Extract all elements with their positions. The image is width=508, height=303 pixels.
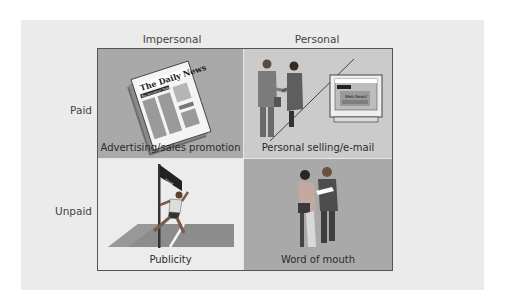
cell-publicity: TAPE Publicity	[98, 159, 244, 270]
cell-advertising: The Daily News Big Sensation Today Adver…	[98, 49, 244, 159]
cell-personal-selling: Web News! Personal selling/e-mail	[244, 49, 392, 159]
promotion-matrix: The Daily News Big Sensation Today Adver…	[97, 48, 393, 271]
cell-caption-personal-selling: Personal selling/e-mail	[244, 142, 392, 153]
row-label-unpaid: Unpaid	[32, 205, 92, 217]
row-label-paid: Paid	[32, 104, 92, 116]
column-label-impersonal: Impersonal	[112, 33, 232, 45]
cell-word-of-mouth: Word of mouth	[244, 159, 392, 270]
cell-caption-word-of-mouth: Word of mouth	[244, 254, 392, 265]
column-label-personal: Personal	[257, 33, 377, 45]
svg-text:Web News!: Web News!	[345, 94, 367, 99]
cell-caption-publicity: Publicity	[98, 254, 243, 265]
cell-caption-advertising: Advertising/sales promotion	[98, 142, 243, 153]
